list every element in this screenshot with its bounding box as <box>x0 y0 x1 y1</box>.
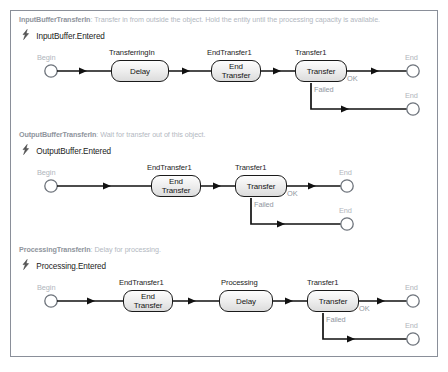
step-processing[interactable]: Delay <box>219 290 273 312</box>
process-name: InputBufferTransferIn <box>19 15 90 24</box>
process-description: Transfer in from outside the object. Hol… <box>94 15 380 24</box>
branch-ok-label: OK <box>287 189 297 198</box>
end-label-ok: End <box>339 168 352 177</box>
branch-failed-label: Failed <box>254 200 274 209</box>
process-description: Wait for transfer out of this object. <box>100 130 205 139</box>
step-title-endtransfer1: EndTransfer1 <box>119 278 164 287</box>
process-diagram[interactable]: Begin EndTransfer1 End Transfer Processi… <box>11 271 438 347</box>
step-endtransfer1[interactable]: End Transfer <box>151 175 201 197</box>
step-transfer1[interactable]: Transfer <box>235 175 287 197</box>
step-label: Transfer <box>247 182 276 191</box>
step-transfer1[interactable]: Transfer <box>307 290 359 312</box>
lightning-bolt-icon <box>21 144 31 155</box>
process-header: InputBufferTransferIn: Transfer in from … <box>19 15 380 25</box>
step-title-transfer1: Transfer1 <box>235 163 266 172</box>
step-label: End Transfer <box>222 62 251 80</box>
process-flow-canvas[interactable]: InputBufferTransferIn: Transfer in from … <box>10 10 438 357</box>
begin-label: Begin <box>37 283 55 292</box>
step-endtransfer1[interactable]: End Transfer <box>211 60 261 82</box>
lightning-bolt-icon <box>21 29 31 40</box>
end-label-failed: End <box>405 91 418 100</box>
end-label-failed: End <box>405 321 418 330</box>
step-title-transfer1: Transfer1 <box>295 48 326 57</box>
lightning-bolt-icon <box>21 259 31 270</box>
end-label-failed: End <box>339 206 352 215</box>
step-title-transferringin: TransferringIn <box>109 48 155 57</box>
branch-failed-label: Failed <box>314 85 334 94</box>
step-title-processing: Processing <box>221 278 258 287</box>
process-header: ProcessingTransferIn: Delay for processi… <box>19 245 161 255</box>
end-label-ok: End <box>405 283 418 292</box>
process-name: ProcessingTransferIn <box>19 245 91 254</box>
process-header: OutputBufferTransferIn: Wait for transfe… <box>19 130 206 140</box>
branch-ok-label: OK <box>359 304 369 313</box>
branch-ok-label: OK <box>347 74 357 83</box>
step-label: End Transfer <box>134 292 163 310</box>
step-label: Transfer <box>319 297 348 306</box>
step-transferringin[interactable]: Delay <box>111 60 169 82</box>
process-name: OutputBufferTransferIn <box>19 130 96 139</box>
begin-label: Begin <box>37 168 55 177</box>
process-description: Delay for processing. <box>94 245 160 254</box>
branch-failed-label: Failed <box>326 315 346 324</box>
step-endtransfer1[interactable]: End Transfer <box>123 290 173 312</box>
step-label: Transfer <box>307 67 336 76</box>
step-title-endtransfer1: EndTransfer1 <box>207 48 252 57</box>
process-diagram[interactable]: Begin EndTransfer1 End Transfer Transfer… <box>11 156 438 232</box>
process-processingtransferin[interactable]: ProcessingTransferIn: Delay for processi… <box>11 245 437 357</box>
end-label-ok: End <box>405 53 418 62</box>
step-label: Delay <box>130 67 150 76</box>
process-diagram[interactable]: Begin TransferringIn Delay EndTransfer1 … <box>11 41 438 117</box>
step-title-endtransfer1: EndTransfer1 <box>147 163 192 172</box>
begin-label: Begin <box>37 53 55 62</box>
step-title-transfer1: Transfer1 <box>307 278 338 287</box>
process-outputbuffertransferin[interactable]: OutputBufferTransferIn: Wait for transfe… <box>11 130 437 248</box>
process-inputbuffertransferin[interactable]: InputBufferTransferIn: Transfer in from … <box>11 15 437 133</box>
step-label: Delay <box>236 297 256 306</box>
step-label: End Transfer <box>162 177 191 195</box>
step-transfer1[interactable]: Transfer <box>295 60 347 82</box>
